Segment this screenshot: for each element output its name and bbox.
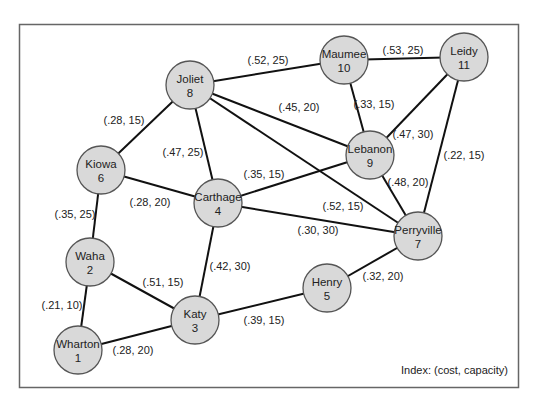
node-carthage: Carthage4 bbox=[194, 179, 242, 227]
node-number: 4 bbox=[215, 205, 222, 217]
node-name: Lebanon bbox=[348, 143, 393, 155]
node-joliet: Joliet8 bbox=[166, 61, 214, 109]
node-waha: Waha2 bbox=[66, 238, 114, 286]
node-circle bbox=[66, 238, 114, 286]
node-circle bbox=[171, 296, 219, 344]
node-leidy: Leidy11 bbox=[440, 33, 488, 81]
node-number: 6 bbox=[98, 172, 104, 184]
edge-label: (.47, 30) bbox=[393, 128, 434, 140]
edge-label: (.48, 20) bbox=[388, 176, 429, 188]
edge-label: (.28, 15) bbox=[104, 114, 145, 126]
node-circle bbox=[320, 36, 368, 84]
node-number: 2 bbox=[87, 264, 93, 276]
edge-label: (.21, 10) bbox=[42, 299, 83, 311]
node-name: Joliet bbox=[177, 73, 205, 85]
node-name: Katy bbox=[183, 308, 206, 320]
node-name: Wharton bbox=[56, 338, 99, 350]
edge-label: (.51, 15) bbox=[143, 276, 184, 288]
node-number: 5 bbox=[324, 290, 330, 302]
node-circle bbox=[394, 212, 442, 260]
node-name: Carthage bbox=[194, 191, 241, 203]
index-legend: Index: (cost, capacity) bbox=[401, 364, 508, 376]
node-number: 9 bbox=[367, 157, 373, 169]
node-maumee: Maumee10 bbox=[320, 36, 368, 84]
node-number: 10 bbox=[338, 62, 351, 74]
edge-label: (.53, 25) bbox=[383, 44, 424, 56]
network-diagram: (.52, 25)(.53, 25)(.28, 15)(.47, 25)(.45… bbox=[0, 0, 536, 400]
edge-label: (.45, 20) bbox=[279, 101, 320, 113]
node-circle bbox=[77, 146, 125, 194]
edge-label: (.52, 15) bbox=[323, 200, 364, 212]
node-name: Perryville bbox=[394, 224, 441, 236]
node-lebanon: Lebanon9 bbox=[346, 131, 394, 179]
node-kiowa: Kiowa6 bbox=[77, 146, 125, 194]
node-wharton: Wharton1 bbox=[54, 326, 102, 374]
edge-label: (.35, 25) bbox=[55, 208, 96, 220]
node-number: 11 bbox=[458, 59, 470, 71]
edge-label: (.35, 15) bbox=[244, 168, 285, 180]
node-number: 1 bbox=[75, 352, 81, 364]
node-name: Maumee bbox=[322, 48, 367, 60]
edge-label: (.28, 20) bbox=[130, 196, 171, 208]
node-number: 7 bbox=[415, 238, 421, 250]
node-name: Leidy bbox=[450, 45, 478, 57]
node-name: Henry bbox=[312, 276, 343, 288]
edge-label: (.39, 15) bbox=[244, 314, 285, 326]
node-perryville: Perryville7 bbox=[394, 212, 442, 260]
edge-leidy-perryville bbox=[418, 57, 464, 236]
node-name: Waha bbox=[75, 250, 105, 262]
node-henry: Henry5 bbox=[303, 264, 351, 312]
edge-label: (.22, 15) bbox=[444, 149, 485, 161]
node-circle bbox=[54, 326, 102, 374]
node-number: 8 bbox=[187, 87, 193, 99]
node-circle bbox=[303, 264, 351, 312]
edge-label: (.42, 30) bbox=[210, 260, 251, 272]
edge-label: (.32, 20) bbox=[363, 270, 404, 282]
node-katy: Katy3 bbox=[171, 296, 219, 344]
node-number: 3 bbox=[192, 322, 198, 334]
node-circle bbox=[440, 33, 488, 81]
edge-label: (.28, 20) bbox=[113, 344, 154, 356]
node-name: Kiowa bbox=[85, 158, 117, 170]
node-circle bbox=[194, 179, 242, 227]
node-circle bbox=[346, 131, 394, 179]
edge-label: (.30, 30) bbox=[298, 224, 339, 236]
edge-label: (.33, 15) bbox=[354, 98, 395, 110]
edge-label: (.47, 25) bbox=[163, 146, 204, 158]
edge-labels-layer: (.52, 25)(.53, 25)(.28, 15)(.47, 25)(.45… bbox=[42, 44, 485, 356]
edge-label: (.52, 25) bbox=[248, 54, 289, 66]
node-circle bbox=[166, 61, 214, 109]
